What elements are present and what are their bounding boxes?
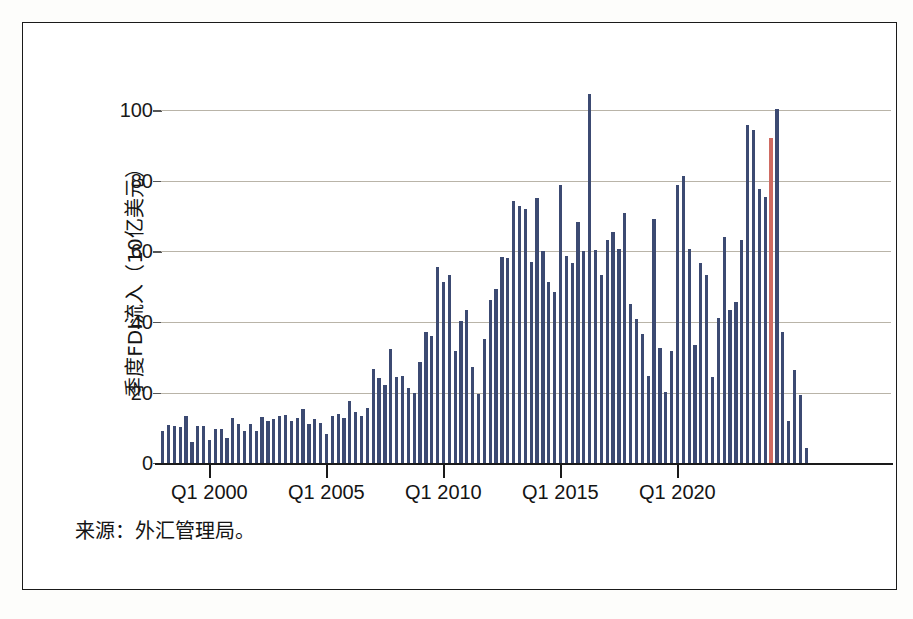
x-axis-tick-mark xyxy=(326,465,328,478)
bar xyxy=(260,417,263,463)
bar xyxy=(676,185,679,463)
bar xyxy=(693,345,696,464)
bar xyxy=(249,424,252,464)
bar xyxy=(617,249,620,463)
bar xyxy=(775,109,778,464)
x-axis-tick-label: Q1 2005 xyxy=(266,481,386,504)
y-axis-title-container: 季度FDI流入（10亿美元） xyxy=(83,75,103,463)
bar xyxy=(688,249,691,464)
bar xyxy=(179,427,182,463)
bar xyxy=(401,376,404,464)
bar xyxy=(623,213,626,463)
bar xyxy=(682,176,685,464)
bar xyxy=(483,339,486,463)
bar xyxy=(167,425,170,463)
page-background: 季度FDI流入（10亿美元） 020406080100 Q1 2000Q1 20… xyxy=(0,0,913,619)
bar xyxy=(430,336,433,463)
bar xyxy=(255,431,258,464)
bar xyxy=(641,334,644,464)
bar xyxy=(571,263,574,463)
bar xyxy=(360,416,363,463)
bar xyxy=(372,369,375,464)
bar xyxy=(594,250,597,463)
bar xyxy=(734,302,737,463)
source-note: 来源：外汇管理局。 xyxy=(75,515,255,544)
bar xyxy=(284,415,287,463)
bar xyxy=(442,282,445,463)
bar xyxy=(190,442,193,463)
bar xyxy=(243,431,246,463)
bar xyxy=(524,209,527,463)
bar xyxy=(237,424,240,463)
bar xyxy=(407,388,410,463)
bar xyxy=(635,319,638,463)
bar xyxy=(208,440,211,463)
bar xyxy=(582,251,585,463)
bar xyxy=(799,395,802,463)
bar xyxy=(454,351,457,463)
gridline xyxy=(161,110,891,111)
bar xyxy=(413,393,416,463)
bar xyxy=(366,408,369,463)
bar xyxy=(354,412,357,463)
bar xyxy=(337,414,340,463)
x-axis-tick-mark xyxy=(677,465,679,478)
bar xyxy=(518,206,521,463)
x-axis-tick-label: Q1 2015 xyxy=(500,481,620,504)
bar xyxy=(541,251,544,463)
bar xyxy=(805,448,808,463)
bar xyxy=(348,401,351,463)
bar xyxy=(220,429,223,463)
bar xyxy=(647,376,650,463)
bar xyxy=(477,394,480,463)
bar xyxy=(565,256,568,463)
bar xyxy=(576,222,579,463)
figure-frame: 季度FDI流入（10亿美元） 020406080100 Q1 2000Q1 20… xyxy=(22,22,897,590)
x-axis-tick-mark xyxy=(443,465,445,478)
bar xyxy=(506,258,509,463)
bar xyxy=(553,292,556,463)
bar xyxy=(758,189,761,463)
bar xyxy=(272,419,275,463)
bar xyxy=(278,416,281,463)
y-axis-tick-label: 20 xyxy=(107,383,153,403)
bar xyxy=(459,321,462,463)
bar xyxy=(793,370,796,464)
bar xyxy=(465,310,468,463)
gridline xyxy=(161,181,891,182)
bar xyxy=(331,416,334,463)
bar xyxy=(389,349,392,463)
bar xyxy=(383,385,386,463)
bar xyxy=(448,275,451,463)
bar xyxy=(471,367,474,463)
x-axis: Q1 2000Q1 2005Q1 2010Q1 2015Q1 2020 xyxy=(161,463,891,513)
y-axis-tick-label: 80 xyxy=(107,171,153,191)
bar xyxy=(606,240,609,463)
y-axis-tick-label: 40 xyxy=(107,312,153,332)
bar xyxy=(787,421,790,463)
bar xyxy=(611,232,614,463)
bar xyxy=(296,418,299,463)
bar xyxy=(301,409,304,463)
bar xyxy=(325,434,328,463)
bar xyxy=(664,392,667,463)
y-axis-tick-labels: 020406080100 xyxy=(101,75,153,463)
y-axis-tick-label: 100 xyxy=(107,100,153,120)
bar xyxy=(418,362,421,463)
bar xyxy=(377,378,380,463)
bar xyxy=(588,94,591,463)
bar xyxy=(658,348,661,463)
bar xyxy=(512,201,515,463)
y-axis-tick-label: 0 xyxy=(107,453,153,473)
bar xyxy=(342,418,345,463)
bar xyxy=(652,219,655,463)
bar xyxy=(752,130,755,463)
bar xyxy=(313,419,316,463)
x-axis-tick-label: Q1 2000 xyxy=(149,481,269,504)
bar xyxy=(500,257,503,463)
y-axis-tick-label: 60 xyxy=(107,241,153,261)
bar xyxy=(728,310,731,463)
bar xyxy=(214,429,217,463)
bar xyxy=(781,332,784,463)
bar xyxy=(530,262,533,463)
